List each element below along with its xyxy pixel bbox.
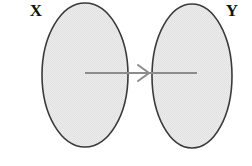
set-x-label: X bbox=[30, 1, 43, 20]
set-y-group[interactable] bbox=[152, 4, 232, 148]
set-y-label: Y bbox=[226, 1, 238, 20]
set-y-ellipse[interactable] bbox=[152, 4, 232, 148]
set-x-group[interactable] bbox=[42, 3, 128, 147]
diagram-canvas: X Y bbox=[0, 0, 252, 166]
set-x-ellipse[interactable] bbox=[42, 3, 128, 147]
set-mapping-diagram: X Y bbox=[0, 0, 252, 166]
